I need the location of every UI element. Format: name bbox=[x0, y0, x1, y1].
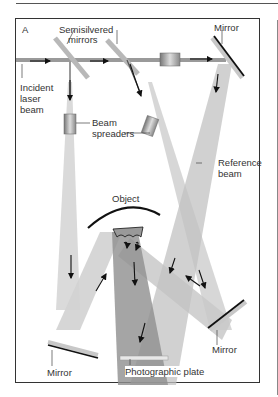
photographic-plate bbox=[120, 356, 168, 360]
semisilvered-mirror-2 bbox=[107, 40, 138, 74]
incident-label-line1: Incident bbox=[20, 82, 53, 93]
photographic-plate-label: Photographic plate bbox=[125, 366, 204, 377]
object-shape bbox=[113, 227, 143, 237]
beam-spreader-2 bbox=[141, 115, 158, 136]
panel-label: A bbox=[22, 24, 28, 35]
incident-label-line3: beam bbox=[20, 104, 44, 115]
reference-beam-label-line1: Reference bbox=[218, 157, 262, 168]
beam-spreader-top bbox=[160, 53, 180, 66]
object-label: Object bbox=[112, 193, 139, 204]
mirror-bottom-left bbox=[48, 342, 98, 358]
beam-spreader-1 bbox=[64, 114, 76, 134]
mirror-bottom-right-label: Mirror bbox=[212, 344, 237, 355]
beam-spreaders-label-line1: Beam bbox=[92, 117, 117, 128]
mirror-top-right-label: Mirror bbox=[214, 22, 239, 33]
semisilvered-mirrors-label-line2: mirrors bbox=[68, 34, 98, 45]
reference-beam-label-line2: beam bbox=[218, 168, 242, 179]
beam-spreaders-label-line2: spreaders bbox=[92, 128, 134, 139]
incident-label-line2: laser bbox=[20, 93, 41, 104]
object-bowl bbox=[88, 207, 160, 228]
mirror-bottom-left-label: Mirror bbox=[47, 367, 72, 378]
